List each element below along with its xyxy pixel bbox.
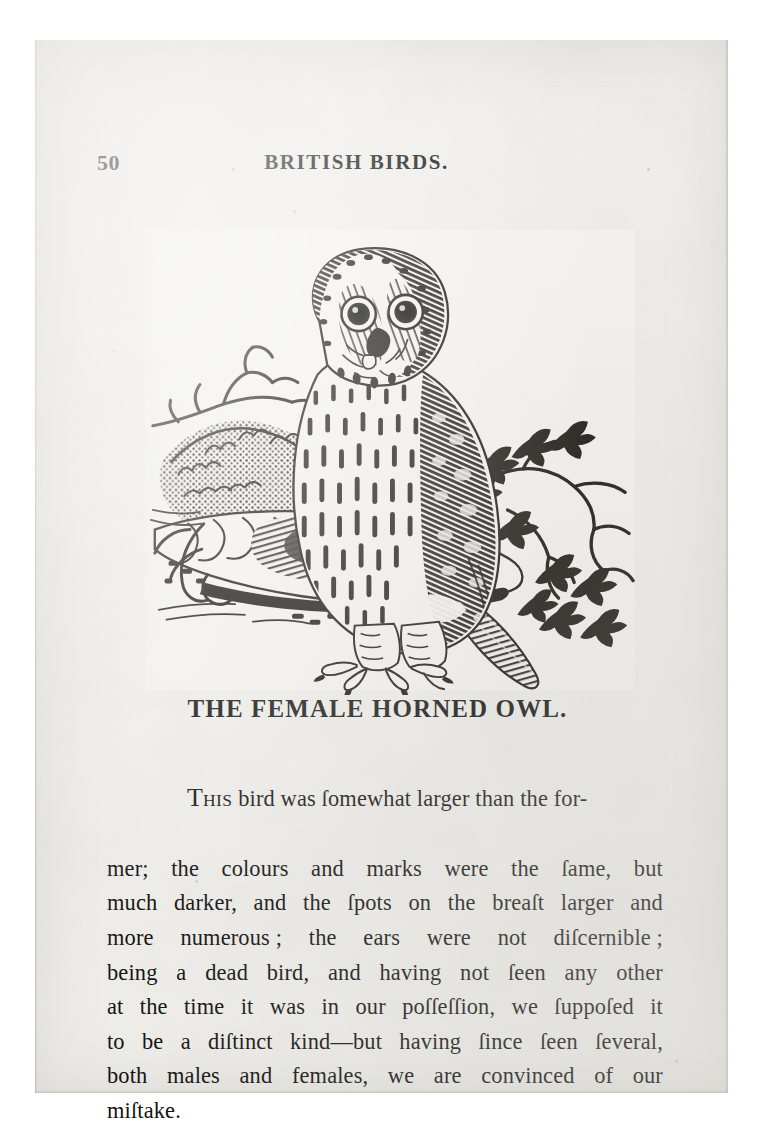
section-heading: THE FEMALE HORNED OWL. xyxy=(35,695,728,723)
foxing-spot xyxy=(293,210,296,213)
owl-eye-left xyxy=(341,297,375,331)
body-line: mer;thecoloursandmarksweretheſame,but xyxy=(107,852,663,887)
page-right-edge xyxy=(725,40,728,1093)
wood-engraving-horned-owl xyxy=(145,225,635,695)
body-line: morenumerous ;theearswerenotdiſcernible … xyxy=(107,921,663,956)
body-line: muchdarker,andtheſpotsonthebreaſtlargera… xyxy=(107,886,663,921)
running-title: BRITISH BIRDS. xyxy=(35,150,728,175)
scan-surround: 50 BRITISH BIRDS. xyxy=(0,0,773,1132)
body-line: beingadeadbird,andhavingnotſeenanyother xyxy=(107,956,663,991)
body-line: THIS bird was ſomewhat larger than the f… xyxy=(107,746,663,852)
body-line: tobeadiſtinctkind—buthavingſinceſeenſeve… xyxy=(107,1025,663,1060)
owl-eye-right xyxy=(389,295,423,329)
body-line: miſtake. xyxy=(107,1094,663,1129)
body-line: atthetimeitwasinourpoſſeſſion,weſuppoſed… xyxy=(107,990,663,1025)
body-line: bothmalesandfemales,weareconvincedofour xyxy=(107,1059,663,1094)
running-head: 50 BRITISH BIRDS. xyxy=(35,150,728,180)
page-gutter-shadow xyxy=(35,40,37,1093)
body-text: THIS bird was ſomewhat larger than the f… xyxy=(107,746,663,1129)
foxing-spot xyxy=(113,350,116,353)
book-page: 50 BRITISH BIRDS. xyxy=(35,40,728,1093)
foxing-spot xyxy=(675,1060,678,1063)
